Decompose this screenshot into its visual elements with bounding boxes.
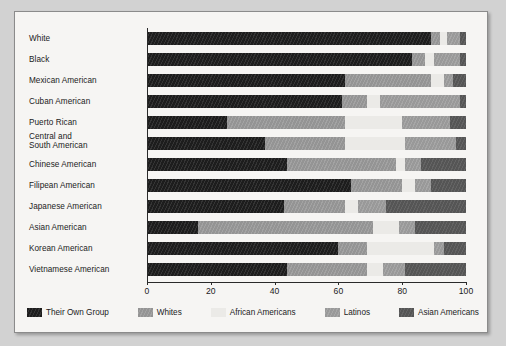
bar-row-label-line: White	[29, 34, 133, 43]
chart-panel: WhiteBlackMexican AmericanCuban American…	[14, 11, 488, 333]
legend-label: Their Own Group	[46, 308, 109, 317]
bar-row-label-line: Asian American	[29, 223, 133, 232]
x-axis-tick	[402, 282, 403, 285]
bar-row-label-line: Puerto Rican	[29, 118, 133, 127]
chart-legend: Their Own GroupWhitesAfrican AmericansLa…	[27, 308, 479, 317]
legend-item: African Americans	[211, 308, 296, 317]
bar-row-label: Mexican American	[29, 76, 133, 85]
x-axis-tick	[147, 282, 148, 285]
x-axis-tick	[275, 282, 276, 285]
legend-item: Whites	[138, 308, 182, 317]
bar-row-label-line: Mexican American	[29, 76, 133, 85]
plot-area: WhiteBlackMexican AmericanCuban American…	[15, 12, 487, 332]
legend-item: Their Own Group	[27, 308, 109, 317]
legend-label: African Americans	[230, 308, 296, 317]
y-axis-line	[147, 28, 467, 283]
bar-row-label: Black	[29, 55, 133, 64]
bar-row-label: Central andSouth American	[29, 132, 133, 150]
legend-label: Latinos	[344, 308, 370, 317]
x-axis-tick-label: 60	[334, 286, 344, 296]
bar-row-label-line: Cuban American	[29, 97, 133, 106]
legend-swatch	[138, 308, 153, 317]
x-axis-tick	[338, 282, 339, 285]
legend-swatch	[399, 308, 414, 317]
bar-row-label-line: Central and	[29, 132, 133, 141]
x-axis-tick-label: 20	[206, 286, 216, 296]
legend-swatch	[211, 308, 226, 317]
chart-page: WhiteBlackMexican AmericanCuban American…	[0, 0, 506, 346]
bar-row-label: Vietnamese American	[29, 265, 133, 274]
legend-item: Latinos	[325, 308, 370, 317]
bar-row-label: Cuban American	[29, 97, 133, 106]
legend-label: Asian Americans	[418, 308, 479, 317]
legend-label: Whites	[157, 308, 182, 317]
bar-row-label-line: Filipean American	[29, 181, 133, 190]
x-axis-tick-label: 40	[270, 286, 280, 296]
x-axis-tick	[466, 282, 467, 285]
legend-swatch	[27, 308, 42, 317]
bar-row-label-line: Korean American	[29, 244, 133, 253]
bar-row-label: Puerto Rican	[29, 118, 133, 127]
x-axis-tick-label: 100	[459, 286, 473, 296]
bar-row-label: White	[29, 34, 133, 43]
x-axis-line	[147, 282, 467, 283]
bar-row-label-line: South American	[29, 141, 133, 150]
x-axis-tick	[211, 282, 212, 285]
bar-row-label: Korean American	[29, 244, 133, 253]
bar-row-label-line: Chinese American	[29, 160, 133, 169]
bar-row-label: Asian American	[29, 223, 133, 232]
bar-row-label-line: Vietnamese American	[29, 265, 133, 274]
x-axis-tick-label: 0	[145, 286, 150, 296]
bar-row-label: Filipean American	[29, 181, 133, 190]
x-axis-tick-label: 80	[397, 286, 407, 296]
legend-item: Asian Americans	[399, 308, 479, 317]
bar-row-label-line: Black	[29, 55, 133, 64]
legend-swatch	[325, 308, 340, 317]
bar-row-label: Chinese American	[29, 160, 133, 169]
bar-row-label: Japanese American	[29, 202, 133, 211]
bar-row-label-line: Japanese American	[29, 202, 133, 211]
